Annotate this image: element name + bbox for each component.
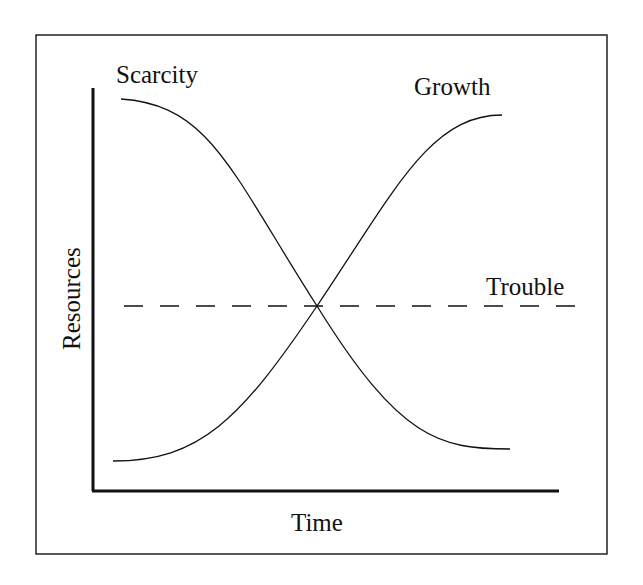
trouble-label: Trouble <box>486 273 564 300</box>
x-axis-label: Time <box>291 509 343 536</box>
scarcity-curve <box>121 99 510 449</box>
scarcity-label: Scarcity <box>116 61 198 88</box>
growth-label: Growth <box>414 73 491 100</box>
diagram-canvas: Scarcity Growth Trouble Resources Time <box>0 0 643 585</box>
growth-curve <box>113 115 502 461</box>
y-axis-label: Resources <box>58 247 85 350</box>
